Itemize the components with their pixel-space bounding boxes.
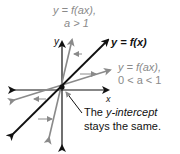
annotation-line1: The y-intercept xyxy=(84,106,157,118)
label-steep-line1: y = f(ax), xyxy=(53,4,96,16)
label-shallow-line2: 0 < a < 1 xyxy=(118,74,161,86)
label-f-x: y = f(x) xyxy=(111,36,147,48)
annotation-prefix: The xyxy=(84,106,106,118)
annotation-italic: y-intercept xyxy=(106,106,157,118)
label-steep-line2: a > 1 xyxy=(64,17,89,29)
y-intercept-point xyxy=(59,84,64,89)
intercept-pointer xyxy=(66,92,82,113)
y-axis-label: y xyxy=(54,36,59,48)
x-axis-label: x xyxy=(106,93,111,105)
annotation-line2: stays the same. xyxy=(84,120,161,132)
label-shallow-line1: y = f(ax), xyxy=(118,61,161,73)
